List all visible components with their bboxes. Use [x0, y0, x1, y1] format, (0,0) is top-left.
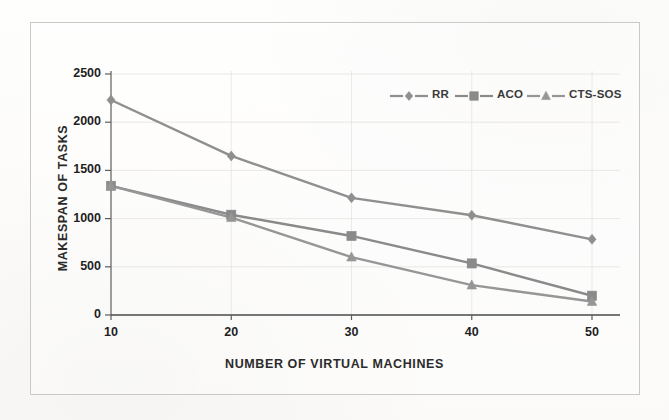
legend-glyphs [390, 91, 565, 100]
legend-item-rr: RR [432, 88, 449, 100]
y-tick-label: 500 [45, 259, 101, 273]
x-axis-title: NUMBER OF VIRTUAL MACHINES [0, 357, 669, 371]
x-tick-label: 30 [327, 325, 377, 339]
y-tick-label: 2500 [45, 66, 101, 80]
y-tick-label: 2000 [45, 114, 101, 128]
legend-item-aco: ACO [497, 88, 523, 100]
y-tick-label: 1000 [45, 211, 101, 225]
axis-lines [111, 71, 620, 315]
x-tick-label: 50 [567, 325, 617, 339]
y-tick-label: 1500 [45, 162, 101, 176]
x-tick-label: 40 [447, 325, 497, 339]
gridlines [111, 71, 620, 315]
x-tick-label: 10 [86, 325, 136, 339]
x-tick-label: 20 [206, 325, 256, 339]
y-tick-label: 0 [45, 307, 101, 321]
legend-item-cts-sos: CTS-SOS [569, 88, 622, 100]
chart-figure: MAKESPAN OF TASKS NUMBER OF VIRTUAL MACH… [0, 0, 669, 420]
